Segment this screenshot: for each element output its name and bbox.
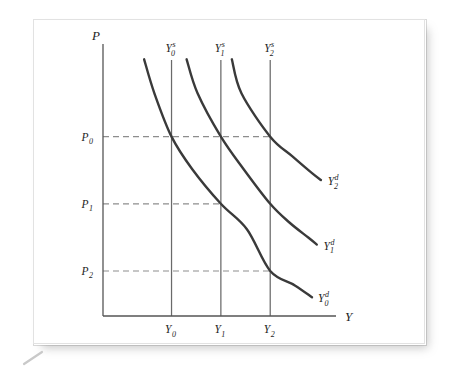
y-tick-P2: P2	[80, 265, 93, 281]
output-axis-title: Y	[345, 309, 354, 324]
demand-curve-Y1d	[187, 59, 317, 244]
curve-label-Y0d: Yd0	[318, 290, 330, 308]
price-axis-tick-labels: P0P1P2	[80, 131, 93, 281]
curve-label-Y0s: Ys0	[166, 40, 176, 58]
curve-label-Y1d: Yd1	[324, 238, 336, 256]
x-tick-Y0: Y0	[165, 323, 176, 339]
axis-lines	[103, 44, 336, 316]
demand-curve-Y0d	[144, 59, 312, 297]
x-tick-Y2: Y2	[264, 323, 275, 339]
curve-label-Y2s: Ys2	[264, 40, 274, 58]
price-axis-title: P	[91, 28, 100, 43]
price-guide-lines	[103, 137, 270, 271]
curve-label-Y1s: Ys1	[215, 40, 225, 58]
demand-curve-Y2d	[232, 59, 321, 180]
curve-label-Y2d: Yd2	[328, 173, 340, 191]
supply-demand-chart: P Y Y0Y1Y2 P0P1P2 Ys0Ys1Ys2Yd0Yd1Yd2	[0, 0, 454, 373]
supply-curves	[172, 60, 271, 316]
output-axis-tick-labels: Y0Y1Y2	[165, 323, 275, 339]
x-tick-Y1: Y1	[214, 323, 225, 339]
page-corner-mark	[22, 350, 48, 366]
y-tick-P1: P1	[80, 198, 93, 214]
figure-root: P Y Y0Y1Y2 P0P1P2 Ys0Ys1Ys2Yd0Yd1Yd2	[0, 0, 454, 373]
demand-curves	[144, 59, 321, 297]
y-tick-P0: P0	[80, 131, 93, 147]
